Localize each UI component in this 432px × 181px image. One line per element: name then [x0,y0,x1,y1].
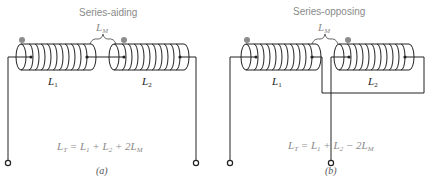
formula-term: = L [298,139,317,151]
mutual-subscript: M [102,27,108,35]
formula-term: − 2L [343,139,368,151]
formula-a: LT = L1 + L2 + 2LM [57,140,143,154]
coil-subscript: 2 [374,81,378,89]
formula-term: = L [67,140,86,152]
mutual-inductance-label-a: LM [96,21,108,35]
inductor-series-diagram: Series-aiding LM L1 L2 LT = L1 + L2 + 2L… [0,0,432,181]
formula-sub: M [368,145,374,153]
polarity-dot-l2-a [121,37,127,43]
wire-left-b [230,57,256,160]
wire-left-a [8,57,31,160]
terminal-right-a [193,160,198,165]
formula-term: + 2L [112,140,137,152]
mutual-inductance-label-b: LM [318,21,330,35]
title-series-opposing: Series-opposing [293,6,365,17]
coil-subscript: 1 [278,81,282,89]
mutual-brace-b [312,34,338,44]
caption-b: (b) [325,165,337,176]
coil-label-l1-b: L1 [272,75,282,89]
formula-b: LT = L1 + L2 − 2LM [288,139,374,153]
coil-label-l1-a: L1 [48,75,58,89]
caption-a: (a) [96,165,108,176]
formula-term: + L [90,140,109,152]
coil-label-l2-b: L2 [368,75,378,89]
terminal-left-a [5,160,10,165]
wire-right-a [180,57,196,160]
polarity-dot-l1-a [19,37,25,43]
coil-subscript: 2 [148,81,152,89]
coil-label-l2-a: L2 [142,75,152,89]
mutual-brace-a [90,34,116,44]
mutual-subscript: M [324,27,330,35]
formula-sub: M [137,146,143,154]
coil-subscript: 1 [54,81,58,89]
polarity-dot-l2-b [345,37,351,43]
polarity-dot-l1-b [244,37,250,43]
terminal-left-b [227,160,232,165]
formula-term: + L [321,139,340,151]
title-series-aiding: Series-aiding [79,7,137,18]
